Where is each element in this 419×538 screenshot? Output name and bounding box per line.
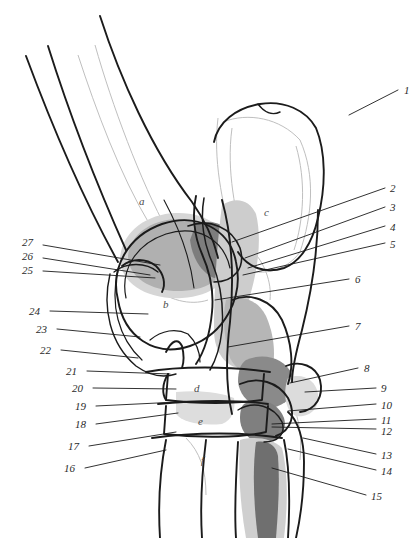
- leader-line-16: [85, 450, 166, 468]
- coronoid-light-shade: [176, 391, 235, 424]
- callout-label-6: 6: [355, 274, 361, 285]
- callout-label-4: 4: [390, 222, 396, 233]
- distal-shaft-marrow-dark: [254, 442, 279, 538]
- callout-label-1: 1: [404, 85, 410, 96]
- callout-label-14: 14: [381, 466, 392, 477]
- callout-label-3: 3: [390, 202, 396, 213]
- callout-label-23: 23: [36, 324, 47, 335]
- callout-label-5: 5: [390, 239, 396, 250]
- leader-line-11: [272, 419, 376, 424]
- callout-label-2: 2: [390, 183, 396, 194]
- region-letter-a: a: [139, 196, 145, 207]
- elbow-joint-illustration: [0, 0, 419, 538]
- leader-line-17: [89, 432, 176, 446]
- metacarpal-f-left: [159, 440, 166, 538]
- callout-label-13: 13: [381, 450, 392, 461]
- leader-line-23: [57, 329, 140, 337]
- callout-label-12: 12: [381, 426, 392, 437]
- region-letter-d: d: [194, 383, 200, 394]
- callout-label-16: 16: [64, 463, 75, 474]
- leader-line-1: [349, 90, 398, 115]
- callout-label-17: 17: [68, 441, 79, 452]
- humerus-shaft-medial-border-2: [48, 46, 126, 250]
- metacarpal-f-right: [235, 442, 238, 538]
- leader-line-13: [303, 438, 376, 454]
- region-letter-f: f: [201, 455, 204, 466]
- callout-label-7: 7: [355, 321, 361, 332]
- callout-label-22: 22: [40, 345, 51, 356]
- region-letter-e: e: [198, 416, 203, 427]
- leader-line-21: [87, 371, 170, 374]
- trochlear-notch-small: [150, 331, 200, 362]
- callout-label-18: 18: [75, 419, 86, 430]
- coronoid-process: [166, 341, 184, 368]
- leader-line-22: [61, 350, 138, 358]
- callout-label-21: 21: [66, 366, 77, 377]
- radius-head-top-notch: [258, 104, 280, 114]
- callout-label-20: 20: [72, 383, 83, 394]
- callout-label-25: 25: [22, 265, 33, 276]
- callout-label-19: 19: [75, 401, 86, 412]
- leader-line-14: [288, 449, 376, 470]
- region-letter-c: c: [264, 207, 269, 218]
- callout-label-24: 24: [29, 306, 40, 317]
- leader-line-8: [290, 368, 358, 383]
- leader-line-24: [50, 311, 148, 314]
- callout-label-8: 8: [364, 363, 370, 374]
- anatomical-figure: 123456789101112131415 272625242322212019…: [0, 0, 419, 538]
- callout-label-26: 26: [22, 251, 33, 262]
- callout-label-15: 15: [371, 491, 382, 502]
- callout-label-27: 27: [22, 237, 33, 248]
- humerus-shaft-medial-border: [26, 56, 118, 262]
- callout-label-10: 10: [381, 400, 392, 411]
- region-letter-b: b: [163, 299, 169, 310]
- callout-label-9: 9: [381, 383, 387, 394]
